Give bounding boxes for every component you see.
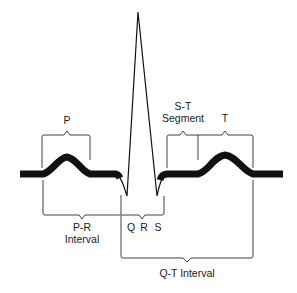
qrs-complex-trace xyxy=(118,12,165,196)
pr-interval-label-line1: P-R xyxy=(73,221,92,233)
st-segment-label-line2: Segment xyxy=(162,112,204,124)
t-wave-label: T xyxy=(222,112,229,124)
r-label: R xyxy=(140,221,148,233)
qt-interval-label: Q-T Interval xyxy=(159,267,214,279)
baseline-p-wave xyxy=(20,157,120,178)
baseline-t-wave xyxy=(160,155,283,180)
p-wave-bracket xyxy=(42,131,90,168)
q-label: Q xyxy=(127,221,135,233)
ecg-diagram: P S-T Segment T P-R Interval Q R S Q-T I… xyxy=(0,0,297,293)
p-wave-label: P xyxy=(63,114,70,126)
st-segment-bracket xyxy=(167,131,198,168)
s-label: S xyxy=(154,221,161,233)
pr-interval-bracket xyxy=(43,180,121,219)
ecg-svg: P S-T Segment T P-R Interval Q R S Q-T I… xyxy=(0,0,297,293)
qrs-bracket xyxy=(121,196,164,219)
st-segment-label-line1: S-T xyxy=(175,100,193,112)
pr-interval-label-line2: Interval xyxy=(65,233,99,245)
t-wave-bracket xyxy=(198,131,253,168)
